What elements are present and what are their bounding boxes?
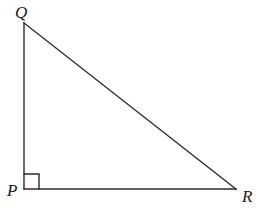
vertex-label-q: Q	[15, 4, 27, 21]
right-angle-marker-icon	[24, 174, 39, 189]
triangle-diagram	[0, 0, 259, 220]
vertex-label-r: R	[242, 188, 252, 205]
triangle-edges	[24, 23, 236, 189]
edge-QR-hypotenuse	[24, 23, 236, 189]
vertex-label-p: P	[7, 182, 17, 199]
geometry-figure: Q P R	[0, 0, 259, 220]
